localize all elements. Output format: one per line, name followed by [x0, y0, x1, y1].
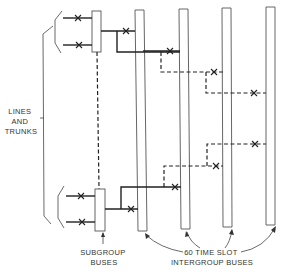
- arrow-icon: [185, 231, 189, 237]
- intergroup-bus-1: [135, 10, 147, 231]
- subgroup-buses-callout: SUBGROUP BUSES: [80, 232, 128, 267]
- intergroup-bus-3: [222, 8, 232, 227]
- intergroup-bus-4: [266, 7, 275, 225]
- arrow-up-icon: [101, 232, 105, 237]
- intergroup-buses-callout: 60 TIME SLOT INTERGROUP BUSES: [145, 226, 276, 267]
- subgroup-link: [97, 52, 99, 189]
- lines-trunks-brace: [40, 26, 53, 224]
- arrow-icon: [271, 226, 276, 233]
- arrow-icon: [229, 229, 234, 235]
- intergroup-buses-label: 60 TIME SLOT INTERGROUP BUSES: [171, 248, 253, 267]
- subgroup-bus-top: [92, 11, 101, 52]
- intergroup-bus-2: [179, 9, 190, 229]
- top-line-group-brace: [55, 11, 62, 53]
- top-line-1: [63, 15, 92, 21]
- bottom-line-group-brace: [58, 186, 64, 228]
- bottom-line-2: [66, 219, 95, 225]
- subgroup-bus-bottom: [95, 189, 105, 231]
- switching-network-diagram: LINES AND TRUNKS: [0, 0, 286, 276]
- top-line-2: [63, 42, 92, 48]
- bottom-line-1: [66, 193, 95, 199]
- lines-and-trunks-label: LINES AND TRUNKS: [5, 107, 38, 136]
- subgroup-buses-label: SUBGROUP BUSES: [80, 248, 128, 267]
